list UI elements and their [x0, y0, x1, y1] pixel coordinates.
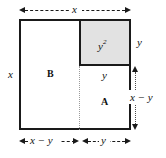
bottom-right-arrow-left [82, 138, 88, 144]
bottom-right-dimension-label: y [101, 135, 106, 146]
inner-y-label: y [102, 70, 107, 81]
geometry-figure: x B A y2 y x y x − y x − y y [0, 0, 166, 158]
right-dimension-arrow-up [132, 66, 138, 72]
top-dimension-label: x [72, 4, 77, 15]
right-dimension-label: x − y [130, 92, 153, 103]
square-area-label: y2 [98, 36, 106, 54]
bottom-right-arrow-right [125, 138, 131, 144]
region-a-label: A [101, 97, 108, 107]
square-area-exponent: 2 [103, 38, 107, 46]
top-dimension-arrow-left [19, 7, 25, 13]
bottom-left-dimension-label: x − y [30, 135, 53, 146]
region-b-label: B [47, 69, 54, 79]
right-dimension-arrow-down [132, 124, 138, 130]
right-square-side-label: y [137, 37, 142, 48]
bottom-left-arrow-left [19, 138, 25, 144]
bottom-left-arrow-right [73, 138, 79, 144]
left-dimension-label: x [8, 69, 13, 80]
top-dimension-arrow-right [125, 7, 131, 13]
interior-dotted-divider [79, 66, 80, 130]
